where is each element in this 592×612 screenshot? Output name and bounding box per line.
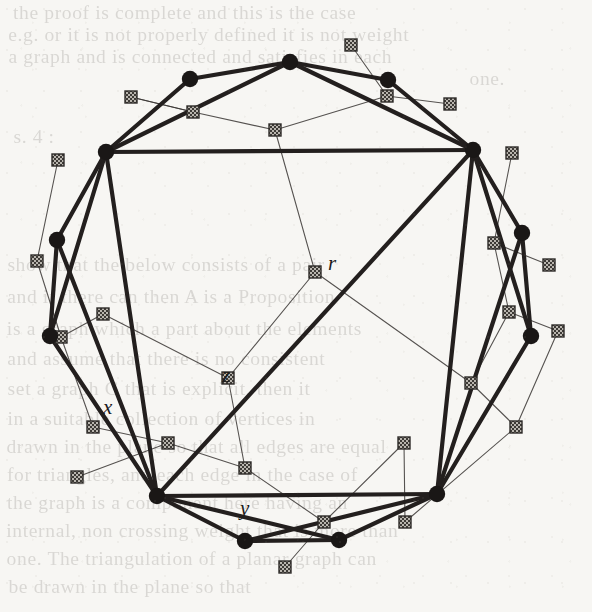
round-node-marker bbox=[98, 144, 114, 160]
vertex-label-r: r bbox=[328, 253, 336, 274]
square-node bbox=[269, 124, 281, 136]
square-node-marker bbox=[71, 471, 83, 483]
square-node bbox=[506, 147, 518, 159]
square-node bbox=[503, 306, 515, 318]
primary-edge bbox=[157, 496, 245, 541]
square-node bbox=[239, 462, 251, 474]
square-node bbox=[552, 325, 564, 337]
secondary-edge bbox=[228, 378, 245, 468]
square-node-marker bbox=[381, 90, 393, 102]
square-node-marker bbox=[187, 106, 199, 118]
square-node-marker bbox=[31, 255, 43, 267]
square-node bbox=[488, 237, 500, 249]
square-node bbox=[345, 39, 357, 51]
square-node-marker bbox=[398, 437, 410, 449]
square-node-marker bbox=[162, 437, 174, 449]
square-node-marker bbox=[552, 325, 564, 337]
square-node bbox=[187, 106, 199, 118]
square-node-marker bbox=[399, 516, 411, 528]
square-node-marker bbox=[318, 516, 330, 528]
square-node bbox=[279, 561, 291, 573]
secondary-edge bbox=[471, 383, 516, 427]
vertex-label-z: z bbox=[222, 365, 230, 386]
round-node-marker bbox=[465, 142, 481, 158]
square-node-marker bbox=[97, 308, 109, 320]
square-node bbox=[543, 259, 555, 271]
square-node bbox=[97, 308, 109, 320]
square-node bbox=[87, 421, 99, 433]
square-node bbox=[125, 91, 137, 103]
primary-edge bbox=[106, 150, 473, 152]
square-node bbox=[465, 377, 477, 389]
primary-edge bbox=[106, 152, 157, 496]
figure-page: the proof is complete and this is the ca… bbox=[0, 0, 592, 612]
primary-edge bbox=[245, 540, 339, 541]
round-node-marker bbox=[42, 328, 58, 344]
square-node bbox=[381, 90, 393, 102]
square-node bbox=[309, 266, 321, 278]
primary-edge bbox=[157, 494, 437, 496]
secondary-edge bbox=[168, 443, 245, 468]
square-node-marker bbox=[503, 306, 515, 318]
graph-figure bbox=[0, 0, 592, 612]
primary-edge bbox=[157, 150, 473, 496]
primary-edge bbox=[473, 150, 522, 233]
square-node-marker bbox=[125, 91, 137, 103]
square-node bbox=[398, 437, 410, 449]
square-node-marker bbox=[510, 421, 522, 433]
square-node bbox=[444, 98, 456, 110]
secondary-edge bbox=[61, 337, 93, 427]
square-node bbox=[71, 471, 83, 483]
secondary-edge bbox=[315, 272, 471, 383]
secondary-edge bbox=[405, 427, 516, 522]
square-node-marker bbox=[279, 561, 291, 573]
square-node bbox=[162, 437, 174, 449]
secondary-edge bbox=[193, 112, 275, 130]
round-node-marker bbox=[282, 54, 298, 70]
primary-edge bbox=[339, 494, 437, 540]
round-node-marker bbox=[523, 328, 539, 344]
square-node-marker bbox=[309, 266, 321, 278]
square-node bbox=[318, 516, 330, 528]
vertex-label-y: y bbox=[240, 498, 249, 519]
square-node-marker bbox=[506, 147, 518, 159]
square-node-marker bbox=[269, 124, 281, 136]
round-node-marker bbox=[49, 232, 65, 248]
secondary-edge bbox=[351, 45, 387, 96]
secondary-edge bbox=[103, 314, 228, 378]
round-node-marker bbox=[237, 533, 253, 549]
secondary-edge bbox=[509, 312, 558, 331]
secondary-edge-group bbox=[37, 45, 558, 567]
square-node bbox=[399, 516, 411, 528]
square-node-marker bbox=[52, 154, 64, 166]
square-node-marker bbox=[87, 421, 99, 433]
round-node-marker bbox=[514, 225, 530, 241]
square-node-marker bbox=[488, 237, 500, 249]
square-node-marker bbox=[543, 259, 555, 271]
secondary-edge bbox=[516, 331, 558, 427]
square-node bbox=[31, 255, 43, 267]
square-node-marker bbox=[345, 39, 357, 51]
square-node bbox=[510, 421, 522, 433]
square-node bbox=[52, 154, 64, 166]
round-node-marker bbox=[149, 488, 165, 504]
square-node-marker bbox=[239, 462, 251, 474]
round-node-marker bbox=[429, 486, 445, 502]
square-node-marker bbox=[465, 377, 477, 389]
secondary-edge bbox=[228, 272, 315, 378]
round-node-marker bbox=[380, 72, 396, 88]
round-node-marker bbox=[331, 532, 347, 548]
vertex-label-x: x bbox=[103, 397, 112, 418]
round-node-marker bbox=[182, 71, 198, 87]
square-node-marker bbox=[444, 98, 456, 110]
